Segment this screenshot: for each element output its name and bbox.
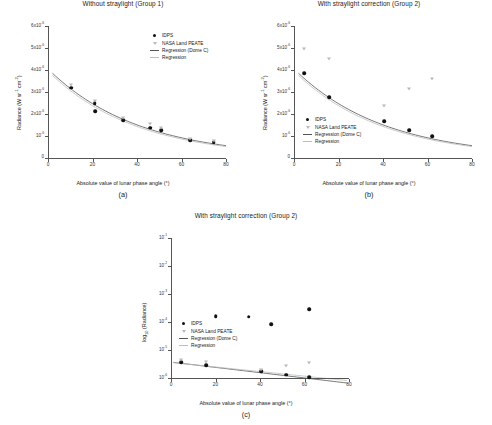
panel-c-y-tick bbox=[168, 266, 171, 267]
panel-c-y-tick-label: 10-2 bbox=[125, 263, 167, 268]
panel-c-y-axis-line bbox=[171, 238, 172, 378]
panel-a-x-tick-label: 80 bbox=[216, 163, 236, 168]
regression-line-icon-glyph bbox=[303, 141, 312, 142]
panel-c-x-tick-label: 80 bbox=[339, 383, 359, 388]
panel-b-y-axis-line bbox=[294, 26, 295, 158]
panel-b-yaxis-end: ) bbox=[262, 75, 268, 77]
regression-line-icon bbox=[179, 345, 188, 346]
legend-row: Regression bbox=[303, 138, 361, 145]
legend-label: Regression (Dome C) bbox=[315, 132, 361, 137]
panel-b-y-tick bbox=[291, 26, 294, 27]
legend-row: Regression bbox=[150, 54, 208, 61]
panel-b-y-tick bbox=[291, 70, 294, 71]
panel-c-point-peate bbox=[284, 364, 288, 367]
panel-a-y-tick bbox=[45, 114, 48, 115]
panel-c-point-idps bbox=[307, 376, 311, 380]
panel-b-yaxis-text: Radiance (W sr bbox=[262, 93, 268, 130]
idps-marker-icon bbox=[179, 322, 188, 325]
panel-b-point-idps bbox=[302, 72, 306, 76]
panel-a-point-idps bbox=[149, 126, 153, 130]
panel-a-y-tick-label: 5x10-6 bbox=[2, 45, 44, 50]
panel-a-yaxis-sup2: -2 bbox=[14, 77, 19, 80]
regression-dome-c-line-icon-glyph bbox=[179, 338, 188, 339]
legend-label: IDPS bbox=[162, 33, 173, 38]
peate-marker-icon bbox=[150, 42, 159, 45]
idps-marker-icon bbox=[303, 118, 312, 121]
regression-dome-c-line-icon bbox=[303, 134, 312, 135]
panel-b-point-idps bbox=[430, 134, 434, 138]
panel-a-y-tick bbox=[45, 136, 48, 137]
panel-b-y-tick-label: 5x10-6 bbox=[248, 45, 290, 50]
panel-a-y-tick bbox=[45, 92, 48, 93]
panel-c-point-idps bbox=[247, 315, 251, 319]
regression-line-icon-glyph bbox=[150, 57, 159, 58]
panel-b-point-idps bbox=[407, 128, 411, 132]
idps-marker-icon-glyph bbox=[182, 322, 185, 325]
legend-label: IDPS bbox=[191, 321, 202, 326]
panel-b-y-tick-label: 0 bbox=[248, 155, 290, 160]
panel-b-y-tick bbox=[291, 92, 294, 93]
panel-b-point-idps bbox=[327, 95, 331, 99]
panel-a-y-tick-label: 3x10-6 bbox=[2, 89, 44, 94]
panel-a-point-idps bbox=[94, 109, 98, 113]
panel-b-y-tick-label: 3x10-6 bbox=[248, 89, 290, 94]
panel-a-yaxis-mid: cm bbox=[16, 81, 22, 90]
panel-a-point-peate bbox=[159, 126, 163, 129]
panel-b-title: With straylight correction (Group 2) bbox=[246, 0, 492, 7]
panel-b-yaxis-title: Radiance (W sr-1 cm-2) bbox=[262, 75, 268, 130]
legend-label: Regression (Dome C) bbox=[162, 48, 208, 53]
panel-b-caption: (b) bbox=[246, 190, 492, 199]
panel-b-point-peate bbox=[302, 47, 306, 50]
panel-c: With straylight correction (Group 2) 10-… bbox=[123, 212, 369, 425]
peate-marker-icon-glyph bbox=[153, 42, 157, 45]
panel-a-y-tick bbox=[45, 48, 48, 49]
idps-marker-icon-glyph bbox=[153, 34, 156, 37]
panel-c-xaxis-title: Absolute value of lunar phase angle (°) bbox=[123, 400, 369, 406]
regression-line-icon bbox=[303, 141, 312, 142]
panel-b-y-tick bbox=[291, 114, 294, 115]
panel-c-x-tick-label: 20 bbox=[206, 383, 226, 388]
panel-a-caption: (a) bbox=[0, 190, 246, 199]
panel-b: With straylight correction (Group 2) 6x1… bbox=[246, 0, 492, 205]
legend-label: Regression bbox=[315, 139, 339, 144]
panel-c-title: With straylight correction (Group 2) bbox=[123, 212, 369, 219]
panel-c-y-tick bbox=[168, 322, 171, 323]
legend-label: NASA Land PEATE bbox=[315, 125, 357, 130]
panel-b-legend: IDPSNASA Land PEATERegression (Dome C)Re… bbox=[303, 116, 361, 146]
panel-a-x-tick-label: 60 bbox=[172, 163, 192, 168]
panel-b-point-peate bbox=[327, 57, 331, 60]
panel-c-curves bbox=[171, 238, 349, 378]
panel-a-point-peate bbox=[121, 116, 125, 119]
regression-dome-c-line-icon-glyph bbox=[150, 50, 159, 51]
panel-c-y-tick-label: 10-1 bbox=[125, 235, 167, 240]
panel-b-point-peate bbox=[382, 105, 386, 108]
regression-line-icon-glyph bbox=[179, 345, 188, 346]
panel-c-yaxis-title: log10 (Radiance) bbox=[141, 303, 147, 342]
panel-b-point-peate bbox=[407, 88, 411, 91]
panel-a-y-axis-line bbox=[48, 26, 49, 158]
legend-row: NASA Land PEATE bbox=[303, 123, 361, 130]
panel-b-point-peate bbox=[430, 78, 434, 81]
panel-b-x-tick-label: 80 bbox=[462, 163, 482, 168]
legend-row: IDPS bbox=[179, 320, 237, 327]
regression-line-icon bbox=[150, 57, 159, 58]
panel-a-y-tick-label: 0 bbox=[2, 155, 44, 160]
panel-b-point-idps bbox=[382, 119, 386, 123]
panel-b-x-tick-label: 20 bbox=[329, 163, 349, 168]
legend-label: Regression (Dome C) bbox=[191, 336, 237, 341]
peate-marker-icon bbox=[303, 126, 312, 129]
panel-c-point-peate bbox=[204, 361, 208, 364]
panel-a-y-tick-label: 4x10-6 bbox=[2, 67, 44, 72]
peate-marker-icon bbox=[179, 330, 188, 333]
panel-c-x-tick-label: 40 bbox=[250, 383, 270, 388]
panel-c-point-idps bbox=[284, 373, 288, 377]
panel-c-legend: IDPSNASA Land PEATERegression (Dome C)Re… bbox=[179, 320, 237, 350]
panel-a-x-tick-label: 40 bbox=[127, 163, 147, 168]
legend-label: Regression bbox=[191, 343, 215, 348]
panel-b-x-tick-label: 40 bbox=[373, 163, 393, 168]
panel-a-point-peate bbox=[148, 122, 152, 125]
panel-c-y-tick-label: 10-3 bbox=[125, 291, 167, 296]
panel-a-point-peate bbox=[93, 99, 97, 102]
panel-c-y-tick-label: 10-6 bbox=[125, 375, 167, 380]
panel-c-point-peate bbox=[179, 359, 183, 362]
